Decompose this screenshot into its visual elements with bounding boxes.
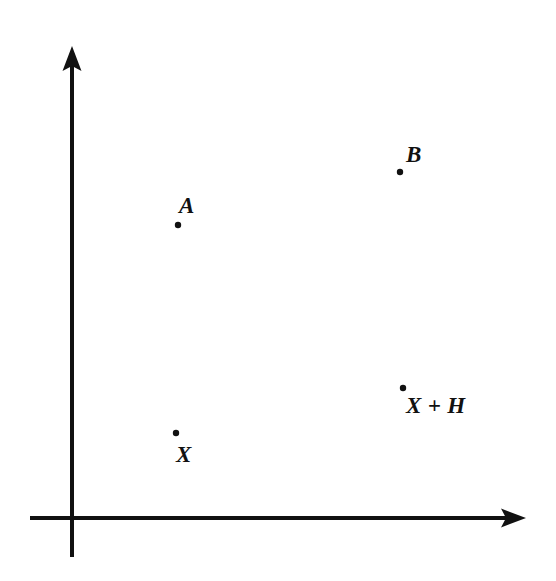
coordinate-figure: [0, 0, 556, 581]
point-label-b: B: [406, 143, 422, 166]
point-dot-x: [173, 430, 179, 436]
point-label-a: A: [179, 194, 195, 217]
figure-canvas: A B X X + H: [0, 0, 556, 581]
point-dot-a: [175, 222, 181, 228]
point-label-x-plus-h: X + H: [406, 394, 465, 417]
point-dot-x-plus-h: [400, 385, 406, 391]
point-label-x: X: [176, 443, 192, 466]
point-dot-b: [397, 169, 403, 175]
